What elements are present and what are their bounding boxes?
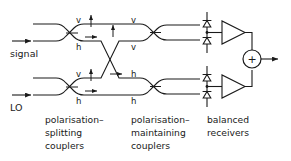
maintaining-coupler-top <box>122 24 200 41</box>
svg-text:couplers: couplers <box>131 140 170 151</box>
balanced-receiver-bottom <box>203 66 252 107</box>
label-h-maintaining-bottom-upper: h <box>131 69 136 79</box>
label-v-splitting-bottom: v <box>76 69 81 79</box>
svg-text:balanced: balanced <box>207 114 249 125</box>
svg-text:polarisation–: polarisation– <box>131 114 190 125</box>
caption-maintaining: polarisation– maintaining couplers <box>131 114 190 151</box>
waveguide-crossover <box>95 41 122 78</box>
signal-label: signal <box>10 48 38 59</box>
lo-label: LO <box>10 102 22 113</box>
splitting-coupler-signal <box>33 24 122 41</box>
coherent-receiver-diagram: signal LO <box>0 0 291 161</box>
caption-splitting: polarisation– splitting couplers <box>45 114 104 151</box>
svg-text:polarisation–: polarisation– <box>45 114 104 125</box>
signal-input: signal <box>10 41 38 59</box>
polarisation-annotations: v h v h v v h h <box>76 15 136 106</box>
svg-text:couplers: couplers <box>45 140 84 151</box>
label-v-splitting-top: v <box>76 15 81 25</box>
summing-node: + <box>243 50 278 68</box>
figure-canvas: signal LO <box>0 0 291 161</box>
label-v-maintaining-top-lower: v <box>131 42 136 52</box>
label-h-splitting-bottom: h <box>76 96 81 106</box>
svg-text:splitting: splitting <box>45 127 82 138</box>
label-h-splitting-top: h <box>76 42 81 52</box>
label-v-maintaining-top-upper: v <box>131 15 136 25</box>
svg-text:maintaining: maintaining <box>131 127 186 138</box>
svg-text:receivers: receivers <box>207 127 249 138</box>
lo-input: LO <box>10 95 31 113</box>
label-h-maintaining-bottom-lower: h <box>131 96 136 106</box>
caption-balanced-receivers: balanced receivers <box>207 114 249 138</box>
splitting-coupler-lo <box>33 78 122 95</box>
maintaining-coupler-bottom <box>122 78 200 95</box>
plus-symbol: + <box>247 53 256 66</box>
